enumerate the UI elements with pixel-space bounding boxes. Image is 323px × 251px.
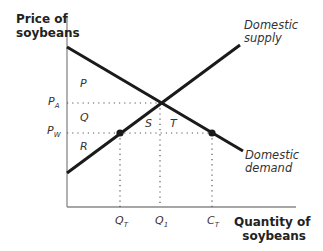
area-t-label: T bbox=[170, 117, 177, 130]
qt-label: QT bbox=[115, 214, 128, 229]
ct-label: CT bbox=[207, 214, 219, 229]
x-axis-title-line2: soybeans bbox=[234, 229, 306, 243]
supply-label: Domestic supply bbox=[244, 19, 298, 45]
demand-label: Domestic demand bbox=[245, 149, 299, 175]
pw-label: PW bbox=[47, 124, 61, 139]
x-axis-title: Quantity of soybeans bbox=[234, 215, 306, 243]
pa-label: PA bbox=[48, 95, 59, 110]
area-s-label: S bbox=[145, 117, 152, 130]
q1-sub: 1 bbox=[164, 221, 168, 229]
area-r-label: R bbox=[80, 140, 88, 153]
ct-point bbox=[208, 129, 215, 136]
x-axis-title-line1: Quantity of bbox=[234, 215, 306, 229]
qt-main: Q bbox=[115, 214, 124, 227]
pw-main: P bbox=[47, 124, 54, 137]
q1-main: Q bbox=[155, 214, 164, 227]
qt-point bbox=[116, 129, 123, 136]
area-p-label: P bbox=[80, 77, 87, 90]
ct-main: C bbox=[207, 214, 215, 227]
y-axis-title-line2: soybeans bbox=[16, 26, 60, 40]
ct-sub: T bbox=[215, 221, 219, 229]
y-axis-title: Price of soybeans bbox=[16, 12, 60, 40]
y-axis-title-line1: Price of bbox=[16, 12, 60, 26]
demand-label-line2: demand bbox=[245, 162, 299, 175]
supply-label-line2: supply bbox=[244, 32, 298, 45]
area-q-label: Q bbox=[80, 111, 89, 124]
pa-sub: A bbox=[55, 102, 60, 110]
pw-sub: W bbox=[54, 131, 61, 139]
qt-sub: T bbox=[124, 221, 128, 229]
pa-main: P bbox=[48, 95, 55, 108]
q1-label: Q1 bbox=[155, 214, 168, 229]
supply-curve bbox=[67, 45, 240, 173]
